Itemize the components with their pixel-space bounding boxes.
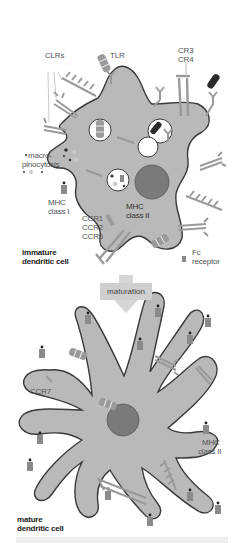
label-fc-receptor: receptor (192, 257, 220, 266)
label-mhc-class-i-line1: MHC (48, 198, 66, 207)
label-clrs: CLRs (45, 51, 64, 60)
label-ccr7: CCR7 (30, 387, 51, 396)
mature-title-line1: mature (17, 515, 42, 524)
label-cr3: CR3 (178, 46, 193, 55)
footer-bar (16, 537, 228, 543)
maturation-label: maturation (107, 287, 145, 296)
label-mature-mhc-line2: class II (198, 447, 221, 456)
label-fc: Fc (192, 248, 201, 257)
label-mhc-class-ii-line1: MHC (126, 202, 144, 211)
immature-cell-membrane (48, 66, 210, 251)
label-cr4: CR4 (178, 55, 193, 64)
immature-title-line1: immature (22, 248, 56, 257)
immature-dendritic-cell (23, 53, 226, 264)
label-macro: macro- (28, 151, 52, 160)
bacterium (206, 73, 221, 90)
immature-title-line2: dendritic cell (22, 257, 69, 266)
dendritic-cell-diagram (0, 0, 241, 543)
label-ccr1: CCR1 (82, 214, 103, 223)
mature-title-line2: dendritic cell (17, 524, 64, 533)
immature-nucleus (135, 165, 169, 199)
label-mhc-class-ii-line2: class II (126, 211, 149, 220)
label-tlr: TLR (110, 51, 125, 60)
label-ccr5: CCR5 (82, 232, 103, 241)
label-mhc-class-i-line2: class I (48, 207, 69, 216)
vesicle-endocytic (107, 169, 129, 191)
label-ccr2: CCR2 (82, 223, 103, 232)
label-pinocytosis: pinocytosis (22, 160, 59, 169)
vesicle-fc (138, 137, 158, 157)
maturation-box: maturation (100, 283, 152, 300)
mature-dendritic-cell (19, 292, 221, 526)
label-mature-mhc-line1: MHC (202, 438, 220, 447)
